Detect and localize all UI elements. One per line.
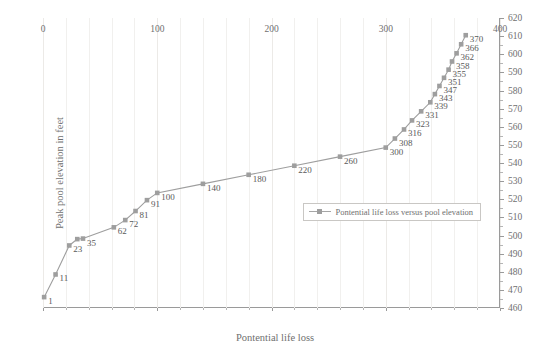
- data-point-marker[interactable]: [338, 154, 343, 159]
- x-axis-tick: [431, 308, 432, 310]
- y-axis-tick: [500, 63, 503, 64]
- y-axis-tick-label: 610: [508, 31, 522, 41]
- data-point-label: 300: [390, 147, 404, 157]
- x-axis-tick: [317, 308, 318, 310]
- y-axis-tick-label: 540: [508, 158, 522, 168]
- x-axis-tick: [294, 308, 295, 310]
- y-axis-tick: [500, 100, 503, 101]
- y-axis-tick: [500, 118, 503, 119]
- data-point-label: 362: [461, 52, 475, 62]
- plot-area: 0100200300400460470480490500510520530540…: [43, 18, 500, 308]
- data-point-marker[interactable]: [67, 243, 72, 248]
- y-axis-tick-label: 500: [508, 231, 522, 241]
- y-axis-tick-label: 580: [508, 86, 522, 96]
- data-point-label: 81: [140, 210, 149, 220]
- y-axis-tick: [500, 226, 503, 227]
- data-point-label: 308: [399, 138, 413, 148]
- y-axis-tick: [500, 54, 504, 55]
- y-axis-tick: [500, 181, 504, 182]
- legend-marker-icon: [309, 207, 331, 216]
- data-point-marker[interactable]: [402, 127, 407, 132]
- data-point-marker[interactable]: [133, 209, 138, 214]
- y-axis-tick-label: 590: [508, 67, 522, 77]
- x-axis-tick: [66, 308, 67, 310]
- data-point-marker[interactable]: [454, 51, 459, 56]
- data-point-label: 62: [118, 226, 127, 236]
- y-axis-tick-label: 570: [508, 104, 522, 114]
- y-axis-tick-label: 550: [508, 140, 522, 150]
- y-axis-tick: [500, 263, 503, 264]
- y-axis-tick: [500, 127, 504, 128]
- x-axis-tick: [43, 308, 44, 311]
- data-point-marker[interactable]: [442, 76, 447, 81]
- y-axis-tick: [500, 163, 504, 164]
- data-point-marker[interactable]: [463, 33, 468, 38]
- x-axis-tick: [454, 308, 455, 310]
- y-axis-tick-label: 510: [508, 212, 522, 222]
- data-point-label: 331: [425, 110, 439, 120]
- data-point-marker[interactable]: [383, 145, 388, 150]
- y-axis-tick: [500, 36, 504, 37]
- data-point-label: 1: [48, 296, 53, 306]
- data-point-label: 180: [253, 174, 267, 184]
- data-point-label: 366: [465, 43, 479, 53]
- y-axis-tick: [500, 27, 503, 28]
- y-axis-tick-label: 600: [508, 49, 522, 59]
- x-axis-tick: [134, 308, 135, 310]
- data-point-marker[interactable]: [433, 92, 438, 97]
- data-point-marker[interactable]: [446, 67, 451, 72]
- data-point-marker[interactable]: [123, 218, 128, 223]
- data-point-marker[interactable]: [428, 100, 433, 105]
- y-axis-tick: [500, 154, 503, 155]
- data-point-marker[interactable]: [292, 163, 297, 168]
- data-point-marker[interactable]: [419, 109, 424, 114]
- y-axis-tick: [500, 145, 504, 146]
- x-axis-tick: [157, 308, 158, 311]
- data-point-marker[interactable]: [246, 172, 251, 177]
- y-axis-tick-label: 480: [508, 267, 522, 277]
- data-point-marker[interactable]: [112, 225, 117, 230]
- y-axis-tick: [500, 281, 503, 282]
- data-point-marker[interactable]: [53, 272, 58, 277]
- data-point-label: 323: [416, 119, 430, 129]
- y-axis-tick-label: 470: [508, 285, 522, 295]
- data-point-label: 316: [408, 128, 422, 138]
- data-point-marker[interactable]: [145, 198, 150, 203]
- data-point-marker[interactable]: [75, 237, 80, 242]
- y-axis-tick-label: 460: [508, 303, 522, 313]
- data-point-marker[interactable]: [201, 182, 206, 187]
- data-point-marker[interactable]: [42, 295, 47, 300]
- y-axis-tick: [500, 290, 504, 291]
- chart-container: Peak pool elevation in feet Pontential l…: [0, 0, 550, 345]
- data-point-marker[interactable]: [459, 42, 464, 47]
- y-axis-tick: [500, 72, 504, 73]
- data-point-marker[interactable]: [155, 191, 160, 196]
- x-axis-tick: [477, 308, 478, 310]
- x-axis-tick: [112, 308, 113, 310]
- data-point-marker[interactable]: [437, 84, 442, 89]
- x-axis-tick: [272, 308, 273, 311]
- x-axis-tick: [226, 308, 227, 310]
- data-point-marker[interactable]: [81, 236, 86, 241]
- y-axis-tick-label: 520: [508, 194, 522, 204]
- y-axis-tick: [500, 18, 504, 19]
- data-point-label: 23: [73, 244, 82, 254]
- x-axis-tick: [89, 308, 90, 310]
- y-axis-tick: [500, 45, 503, 46]
- x-axis-title: Pontential life loss: [0, 332, 550, 343]
- data-point-label: 35: [87, 238, 96, 248]
- data-point-marker[interactable]: [450, 59, 455, 64]
- data-point-marker[interactable]: [410, 118, 415, 123]
- data-point-marker[interactable]: [393, 136, 398, 141]
- legend-label: Pontential life loss versus pool elevati…: [335, 207, 473, 217]
- x-axis-tick: [363, 308, 364, 310]
- data-point-label: 11: [60, 273, 69, 283]
- data-point-label: 220: [298, 165, 312, 175]
- y-axis-tick: [500, 199, 504, 200]
- y-axis-tick: [500, 272, 504, 273]
- y-axis-tick: [500, 109, 504, 110]
- y-axis-tick: [500, 91, 504, 92]
- data-point-label: 140: [207, 183, 221, 193]
- y-axis-tick-label: 530: [508, 176, 522, 186]
- y-axis-tick: [500, 190, 503, 191]
